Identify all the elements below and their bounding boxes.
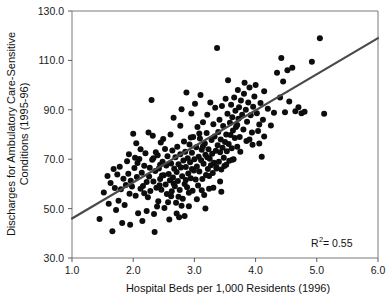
data-point <box>246 85 252 91</box>
data-point <box>309 59 315 65</box>
data-point <box>237 149 243 155</box>
data-point <box>256 122 262 128</box>
data-point <box>168 132 174 138</box>
data-point <box>161 205 167 211</box>
data-point <box>241 91 247 97</box>
data-point <box>113 207 119 213</box>
data-point <box>214 45 220 51</box>
data-point <box>295 104 301 110</box>
data-point <box>223 162 229 168</box>
data-point <box>126 151 132 157</box>
r-squared-prefix: R <box>311 237 319 249</box>
data-point <box>253 82 259 88</box>
data-point <box>138 146 144 152</box>
data-point <box>251 93 257 99</box>
data-point <box>159 173 165 179</box>
data-point <box>229 114 235 120</box>
data-point <box>160 136 166 142</box>
data-point <box>163 181 169 187</box>
data-point <box>217 178 223 184</box>
y-tick-label: 130.0 <box>38 5 64 17</box>
data-point <box>177 187 183 193</box>
data-point <box>216 159 222 165</box>
data-point <box>189 166 195 172</box>
data-point <box>177 123 183 129</box>
data-point <box>132 155 138 161</box>
data-point <box>162 146 168 152</box>
data-point <box>198 92 204 98</box>
data-point <box>231 94 237 100</box>
data-point <box>286 98 292 104</box>
data-point <box>151 211 157 217</box>
data-point <box>154 204 160 210</box>
data-point <box>150 155 156 161</box>
y-axis-tick-labels: 30.050.070.090.0110.0130.0 <box>38 5 64 264</box>
data-point <box>238 97 244 103</box>
data-point <box>142 150 148 156</box>
data-point <box>174 169 180 175</box>
data-point <box>240 127 246 133</box>
data-point <box>223 96 229 102</box>
data-point <box>186 190 192 196</box>
data-point <box>268 123 274 129</box>
data-point <box>97 216 103 222</box>
data-point <box>202 206 208 212</box>
data-point <box>120 176 126 182</box>
data-point <box>169 148 175 154</box>
data-point <box>289 65 295 71</box>
data-point <box>174 211 180 217</box>
data-point <box>224 111 230 117</box>
data-point <box>246 136 252 142</box>
data-point <box>194 124 200 130</box>
data-point <box>229 145 235 151</box>
data-point <box>130 131 136 137</box>
x-tick-label: 5.0 <box>309 264 324 276</box>
data-point <box>204 130 210 136</box>
data-point <box>249 130 255 136</box>
data-point <box>111 166 117 172</box>
data-point <box>229 157 235 163</box>
data-point <box>192 101 198 107</box>
data-point <box>261 133 267 139</box>
data-point <box>171 180 177 186</box>
data-point <box>278 55 284 61</box>
data-point <box>228 102 234 108</box>
data-point <box>201 161 207 167</box>
data-point <box>259 154 265 160</box>
data-point <box>216 117 222 123</box>
data-point <box>210 121 216 127</box>
data-point <box>133 140 139 146</box>
data-point <box>175 194 181 200</box>
data-point <box>157 182 163 188</box>
data-point <box>204 154 210 160</box>
data-point <box>235 87 241 93</box>
data-point <box>139 218 145 224</box>
data-point <box>108 180 114 186</box>
data-point <box>152 229 158 235</box>
data-point <box>179 203 185 209</box>
data-point <box>166 216 172 222</box>
data-point <box>199 187 205 193</box>
data-point <box>124 158 130 164</box>
data-point <box>187 141 193 147</box>
data-point <box>188 111 194 117</box>
data-point <box>186 203 192 209</box>
data-point <box>183 177 189 183</box>
data-point <box>149 97 155 103</box>
data-point <box>243 107 249 113</box>
data-point <box>101 190 107 196</box>
data-point <box>168 193 174 199</box>
data-point <box>144 179 150 185</box>
data-point <box>150 178 156 184</box>
data-point <box>200 119 206 125</box>
data-point <box>141 190 147 196</box>
scatter-plot: 1.02.03.04.05.06.0 30.050.070.090.0110.0… <box>0 0 390 300</box>
data-point <box>146 130 152 136</box>
x-tick-label: 1.0 <box>65 264 80 276</box>
data-point <box>282 109 288 115</box>
data-point <box>250 104 256 110</box>
data-point <box>117 164 123 170</box>
data-point <box>256 140 262 146</box>
x-axis-tick-labels: 1.02.03.04.05.06.0 <box>65 264 386 276</box>
data-point <box>219 103 225 109</box>
